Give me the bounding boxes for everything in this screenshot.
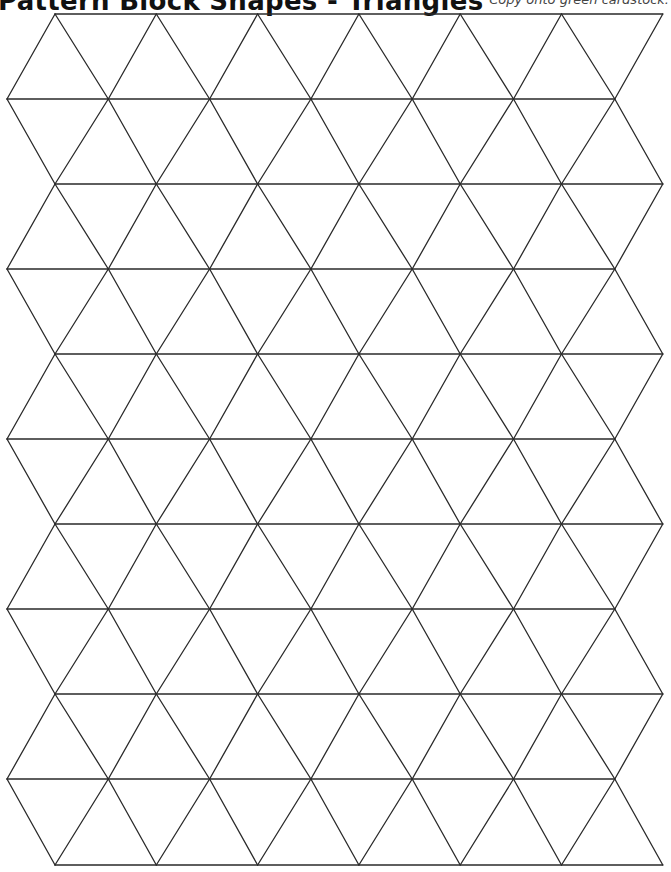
grid-diagonal [460,439,513,524]
grid-diagonal [55,609,108,694]
grid-diagonal [359,524,412,609]
grid-diagonal [460,524,513,609]
grid-diagonal [359,269,412,354]
grid-diagonal [412,694,460,779]
grid-diagonal [55,354,108,439]
grid-diagonal [156,694,209,779]
grid-diagonal [55,524,108,609]
grid-diagonal [615,694,663,779]
grid-diagonal [460,609,513,694]
grid-diagonal [55,694,108,779]
grid-diagonal [562,14,615,99]
grid-diagonal [55,779,108,865]
grid-diagonal [514,269,562,354]
grid-diagonal [258,14,311,99]
grid-diagonal [7,694,55,779]
grid-diagonal [412,524,460,609]
grid-diagonal [210,609,258,694]
grid-diagonal [615,524,663,609]
grid-diagonal [412,779,460,865]
grid-diagonal [562,779,615,865]
grid-diagonal [210,184,258,269]
grid-diagonal [311,439,359,524]
grid-diagonal [562,439,615,524]
grid-diagonal [460,99,513,184]
grid-diagonal [258,779,311,865]
grid-diagonal [514,779,562,865]
grid-diagonal [258,524,311,609]
grid-diagonal [615,354,663,439]
grid-diagonal [258,609,311,694]
grid-diagonal [156,269,209,354]
grid-diagonal [359,694,412,779]
grid-diagonal [7,184,55,269]
grid-diagonal [514,14,562,99]
grid-diagonal [359,14,412,99]
grid-diagonal [108,524,156,609]
grid-diagonal [460,14,513,99]
grid-diagonal [156,99,209,184]
grid-diagonal [460,779,513,865]
grid-diagonal [359,439,412,524]
grid-diagonal [562,694,615,779]
grid-diagonal [210,354,258,439]
grid-diagonal [562,524,615,609]
grid-diagonal [7,99,55,184]
grid-diagonal [108,609,156,694]
grid-diagonal [615,269,663,354]
grid-diagonal [7,609,55,694]
grid-diagonal [156,439,209,524]
grid-diagonal [7,269,55,354]
grid-diagonal [156,609,209,694]
grid-diagonal [514,609,562,694]
grid-diagonal [562,269,615,354]
grid-diagonal [514,439,562,524]
grid-diagonal [210,439,258,524]
grid-diagonal [55,269,108,354]
grid-diagonal [615,779,663,865]
grid-diagonal [258,439,311,524]
grid-diagonal [258,184,311,269]
grid-diagonal [311,609,359,694]
grid-diagonal [615,609,663,694]
grid-diagonal [412,609,460,694]
grid-diagonal [615,184,663,269]
grid-diagonal [108,99,156,184]
grid-diagonal [562,99,615,184]
grid-diagonal [108,269,156,354]
grid-diagonal [55,184,108,269]
grid-diagonal [156,184,209,269]
grid-diagonal [460,694,513,779]
grid-diagonal [108,184,156,269]
grid-diagonal [412,184,460,269]
grid-diagonal [412,14,460,99]
grid-diagonal [311,184,359,269]
grid-diagonal [55,439,108,524]
grid-diagonal [359,779,412,865]
grid-diagonal [311,779,359,865]
grid-diagonal [359,354,412,439]
grid-diagonal [7,779,55,865]
grid-diagonal [258,269,311,354]
grid-diagonal [514,524,562,609]
grid-diagonal [55,14,108,99]
grid-diagonal [7,439,55,524]
grid-diagonal [412,269,460,354]
grid-diagonal [514,99,562,184]
grid-diagonal [311,14,359,99]
grid-diagonal [210,694,258,779]
grid-diagonal [7,14,55,99]
grid-diagonal [615,439,663,524]
grid-diagonal [311,354,359,439]
grid-diagonal [258,99,311,184]
grid-diagonal [412,99,460,184]
grid-diagonal [156,779,209,865]
grid-diagonal [108,694,156,779]
grid-diagonal [210,99,258,184]
grid-diagonal [562,184,615,269]
grid-diagonal [258,354,311,439]
grid-diagonal [7,524,55,609]
grid-diagonal [7,354,55,439]
grid-diagonal [514,354,562,439]
grid-diagonal [460,269,513,354]
